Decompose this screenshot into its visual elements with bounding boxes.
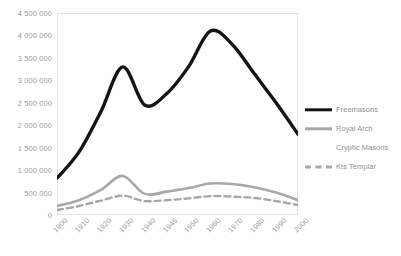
legend-label: Royal Arch [336, 124, 373, 133]
legend-swatch-icon [305, 124, 332, 134]
x-axis-tick-label: 2000 [292, 216, 310, 234]
legend-swatch-icon [305, 143, 332, 153]
legend-item-cryptic-masons[interactable]: Cryptic Masons [305, 138, 401, 157]
y-axis-tick-label: 1 000 000 [18, 166, 52, 175]
series-line-freemasons [57, 30, 298, 178]
y-axis-tick-label: 4 000 000 [18, 31, 52, 40]
y-axis-tick-label: 3 500 000 [18, 53, 52, 62]
legend-item-kts-templar[interactable]: Kts Templar [305, 157, 401, 176]
legend-label: Kts Templar [336, 162, 376, 171]
y-axis-tick-label: 3 000 000 [18, 76, 52, 85]
series-line-royal-arch [57, 176, 298, 206]
legend-swatch-icon [305, 105, 332, 115]
legend-item-royal-arch[interactable]: Royal Arch [305, 119, 401, 138]
x-axis-tick-label: 1950 [182, 216, 200, 234]
x-axis-tick-label: 1940 [139, 216, 157, 234]
x-axis-tick-label: 1910 [73, 216, 91, 234]
x-axis-tick-label: 1970 [226, 216, 244, 234]
series-line-kts-templar [57, 196, 298, 210]
x-axis-tick-label: 1945 [160, 216, 178, 234]
y-axis-tick-label: 500 000 [24, 188, 52, 197]
chart-legend: FreemasonsRoyal ArchCryptic MasonsKts Te… [305, 100, 401, 176]
x-axis-tick-label: 1930 [117, 216, 135, 234]
y-axis-tick-label: 2 500 000 [18, 98, 52, 107]
y-axis-tick-label: 4 500 000 [18, 9, 52, 18]
y-axis-tick-label: 2 000 000 [18, 121, 52, 130]
y-axis-tick-labels: 0500 0001 000 0001 500 0002 000 0002 500… [0, 0, 54, 216]
x-axis-tick-label: 1900 [51, 216, 69, 234]
line-chart: 0500 0001 000 0001 500 0002 000 0002 500… [0, 0, 401, 256]
plot-series-canvas [57, 13, 298, 215]
x-axis-tick-label: 1980 [248, 216, 266, 234]
legend-item-freemasons[interactable]: Freemasons [305, 100, 401, 119]
y-axis-tick-label: 1 500 000 [18, 143, 52, 152]
legend-swatch-icon [305, 162, 332, 172]
legend-label: Freemasons [336, 105, 378, 114]
x-axis-tick-label: 1920 [95, 216, 113, 234]
y-axis-tick-label: 0 [48, 211, 52, 220]
x-axis-tick-label: 1960 [204, 216, 222, 234]
legend-label: Cryptic Masons [336, 143, 388, 152]
x-axis-tick-labels: 1900191019201930194019451950196019701980… [57, 216, 298, 256]
x-axis-tick-label: 1990 [270, 216, 288, 234]
